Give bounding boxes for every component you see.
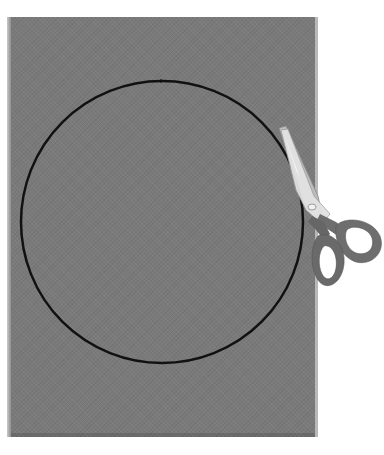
illustration-canvas bbox=[0, 0, 384, 455]
scissors-cutting-circle-illustration bbox=[0, 0, 384, 455]
circle-cut-line bbox=[21, 81, 303, 363]
scissors-pivot-screw bbox=[308, 204, 316, 210]
scissors-blade-front bbox=[281, 129, 330, 224]
scissors-icon bbox=[279, 126, 381, 286]
